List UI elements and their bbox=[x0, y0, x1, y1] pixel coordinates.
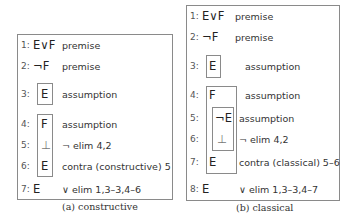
formula: E∨F bbox=[202, 9, 224, 23]
formula: ¬F bbox=[202, 30, 218, 44]
line-number: 6: bbox=[190, 134, 199, 144]
line-number: 3: bbox=[21, 89, 30, 99]
line-number: 7: bbox=[190, 157, 199, 167]
proof-constructive: 1: E∨F premise 2: ¬F premise 3: E assump… bbox=[17, 34, 173, 200]
formula: E bbox=[33, 182, 40, 196]
justification: assumption bbox=[245, 61, 300, 72]
line-number: 7: bbox=[21, 184, 30, 194]
formula: E bbox=[209, 155, 216, 169]
caption-constructive: (a) constructive bbox=[62, 201, 138, 212]
justification: premise bbox=[235, 32, 273, 43]
formula: F bbox=[209, 88, 216, 102]
justification: assumption bbox=[62, 119, 117, 130]
formula: ⊥ bbox=[41, 138, 51, 152]
formula: E bbox=[209, 59, 216, 73]
formula: F bbox=[41, 117, 48, 131]
line-number: 2: bbox=[21, 61, 30, 71]
formula: ⊥ bbox=[217, 132, 227, 146]
line-number: 3: bbox=[190, 61, 199, 71]
line-number: 1: bbox=[21, 40, 30, 50]
line-number: 6: bbox=[21, 161, 30, 171]
caption-classical: (b) classical bbox=[236, 202, 293, 213]
justification: assumption bbox=[245, 90, 300, 101]
justification: contra (classical) 5–6 bbox=[239, 157, 340, 168]
line-number: 1: bbox=[190, 11, 199, 21]
justification: ¬ elim 4,2 bbox=[62, 140, 112, 151]
line-number: 5: bbox=[190, 113, 199, 123]
justification: contra (constructive) 5 bbox=[62, 161, 171, 172]
justification: assumption bbox=[239, 113, 294, 124]
justification: premise bbox=[62, 61, 100, 72]
formula: E bbox=[202, 182, 209, 196]
justification: assumption bbox=[62, 89, 117, 100]
justification: ∨ elim 1,3–3,4–6 bbox=[62, 184, 141, 195]
formula: E bbox=[41, 159, 48, 173]
formula: E bbox=[41, 87, 48, 101]
line-number: 4: bbox=[21, 119, 30, 129]
line-number: 5: bbox=[21, 140, 30, 150]
justification: premise bbox=[235, 11, 273, 22]
justification: premise bbox=[62, 40, 100, 51]
line-number: 4: bbox=[190, 90, 199, 100]
line-number: 8: bbox=[190, 184, 199, 194]
formula: ¬F bbox=[33, 59, 49, 73]
formula: ¬E bbox=[215, 111, 232, 125]
justification: ∨ elim 1,3–3,4–7 bbox=[239, 184, 318, 195]
line-number: 2: bbox=[190, 32, 199, 42]
justification: ¬ elim 4,2 bbox=[239, 134, 289, 145]
proof-classical: 1: E∨F premise 2: ¬F premise 3: E assump… bbox=[186, 5, 340, 201]
formula: E∨F bbox=[33, 38, 55, 52]
